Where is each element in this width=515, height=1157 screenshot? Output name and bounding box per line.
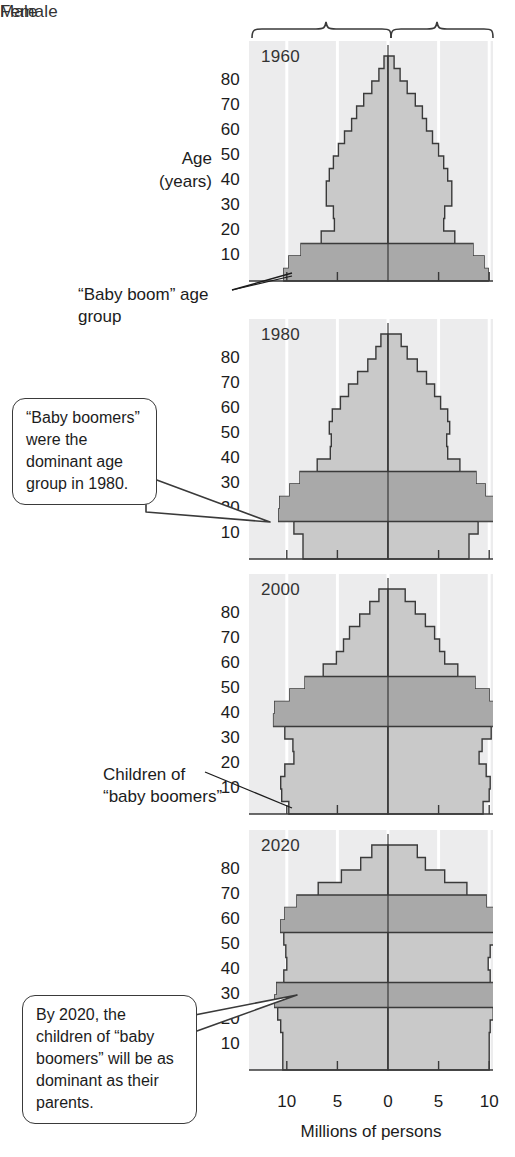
y-axis-tick-1960-70: 70 [208,95,240,115]
y-axis-tick-2020-80: 80 [208,859,240,879]
panel-year-label-2000: 2000 [261,580,300,600]
y-axis-title-line1: Age [132,147,212,170]
y-axis-tick-1960-80: 80 [208,70,240,90]
panel-year-label-1980: 1980 [261,325,300,345]
male-female-brace-header: Male Female [0,0,515,40]
pyramid-chart-1960 [249,41,493,293]
x-axis-title: Millions of persons [249,1122,493,1142]
brace-icon [0,0,515,40]
x-axis-tick-label-2: 0 [371,1092,405,1112]
y-axis-tick-2000-50: 50 [208,678,240,698]
y-axis-tick-2000-70: 70 [208,628,240,648]
y-axis-tick-1960-50: 50 [208,145,240,165]
y-axis-tick-2020-60: 60 [208,909,240,929]
y-axis-title-line2: (years) [132,170,212,193]
y-axis-tick-1980-40: 40 [208,448,240,468]
y-axis-title: Age (years) [132,147,212,193]
y-axis-tick-2000-80: 80 [208,603,240,623]
y-axis-tick-2000-60: 60 [208,653,240,673]
x-axis-tick-label-4: 10 [472,1092,506,1112]
leader-line-children-of-boomers [0,760,330,810]
y-axis-tick-1960-40: 40 [208,170,240,190]
y-axis-tick-2000-40: 40 [208,703,240,723]
x-axis-tick-label-1: 5 [320,1092,354,1112]
y-axis-tick-1960-60: 60 [208,120,240,140]
y-axis-tick-1980-70: 70 [208,373,240,393]
pyramid-panel-1960: 1960 [249,41,493,293]
y-axis-tick-2020-70: 70 [208,884,240,904]
x-axis-tick-label-0: 10 [270,1092,304,1112]
y-axis-tick-1960-20: 20 [208,220,240,240]
x-axis-tick-label-3: 5 [422,1092,456,1112]
y-axis-tick-2020-40: 40 [208,959,240,979]
callout-tail-1980 [140,470,300,550]
y-axis-tick-1980-60: 60 [208,398,240,418]
y-axis-tick-1980-50: 50 [208,423,240,443]
y-axis-tick-1980-80: 80 [208,348,240,368]
callout-2020: By 2020, the children of “baby boomers” … [22,995,197,1124]
y-axis-tick-2020-50: 50 [208,934,240,954]
panel-year-label-1960: 1960 [261,47,300,67]
y-axis-tick-2000-30: 30 [208,728,240,748]
y-axis-tick-1960-30: 30 [208,195,240,215]
leader-line-baby-boom [0,262,300,312]
panel-year-label-2020: 2020 [261,836,300,856]
x-axis-tick-labels: 1050510 [249,1092,493,1116]
callout-1980: “Baby boomers” were the dominant age gro… [12,398,157,505]
